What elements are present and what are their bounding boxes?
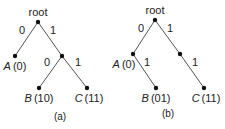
node-c — [202, 86, 206, 90]
leaf-label-a: A(0) — [112, 58, 136, 70]
leaf-label-b: B(01) — [142, 92, 171, 104]
root-label: root — [146, 4, 165, 16]
node-a — [13, 54, 17, 58]
node-internal — [178, 52, 182, 56]
node-b — [37, 86, 41, 90]
node-a — [131, 52, 135, 56]
node-root — [153, 18, 157, 22]
edge-n1-b — [39, 56, 62, 88]
edge-label: 0 — [19, 24, 25, 36]
leaf-label-c: C(11) — [75, 92, 104, 104]
edge-label: 1 — [192, 56, 198, 68]
tree-a: root 0 1 0 1 A(0) B(10) C(11) (a) — [3, 6, 104, 122]
leaf-label-c: C(11) — [192, 92, 221, 104]
node-root — [36, 20, 40, 24]
node-internal — [60, 54, 64, 58]
edge-label: 1 — [50, 24, 56, 36]
leaf-label-a: A(0) — [3, 60, 27, 72]
edge-label: 0 — [44, 56, 50, 68]
edge-label: 1 — [167, 22, 173, 34]
code-trees-figure: root 0 1 0 1 A(0) B(10) C(11) (a) root 0… — [0, 0, 225, 129]
edge-label: 1 — [75, 56, 81, 68]
root-label: root — [29, 6, 48, 18]
leaf-label-b: B(10) — [25, 92, 54, 104]
node-c — [85, 86, 89, 90]
caption-b: (b) — [162, 108, 174, 119]
edge-label: 1 — [144, 56, 150, 68]
tree-b: root 0 1 1 1 A(0) B(01) C(11) (b) — [112, 4, 221, 119]
node-b — [154, 86, 158, 90]
caption-a: (a) — [54, 111, 66, 122]
edge-label: 0 — [138, 22, 144, 34]
